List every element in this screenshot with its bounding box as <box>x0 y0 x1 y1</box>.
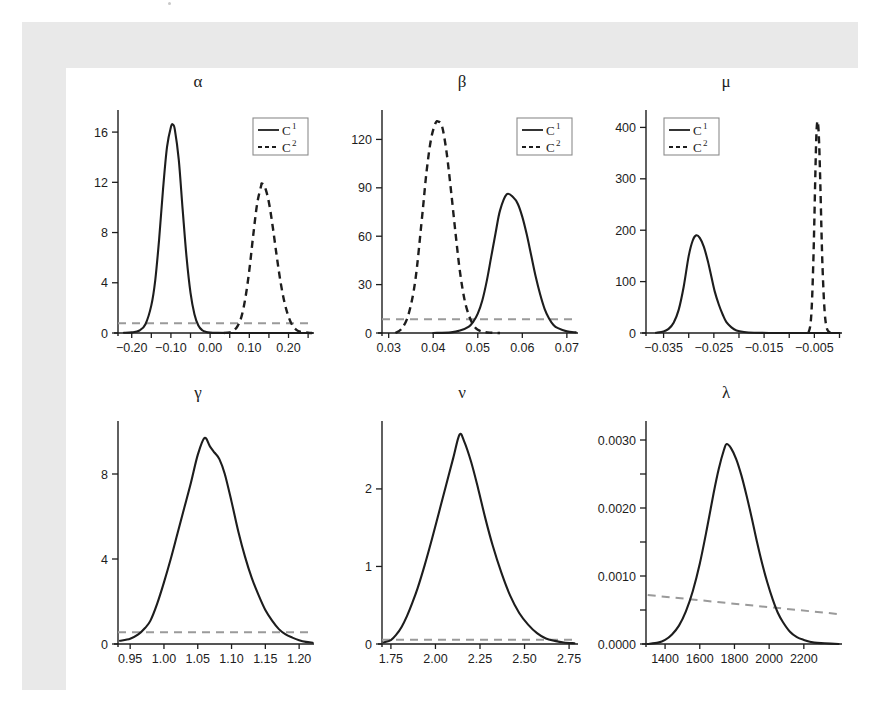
chart-panel-4: γ0.951.001.051.101.151.20048 <box>66 379 330 690</box>
legend-label-superscript: 2 <box>556 138 561 148</box>
x-tick-label: −0.035 <box>644 341 683 355</box>
x-tick-label: −0.10 <box>155 341 187 355</box>
chart-panel-1: α−0.20−0.100.000.100.200481216C1C2 <box>66 68 330 379</box>
y-tick-label: 4 <box>101 276 108 290</box>
y-tick-label: 8 <box>101 226 108 240</box>
y-tick-label: 0.0020 <box>598 502 636 516</box>
legend-label: C <box>282 140 291 155</box>
chart-panel-2: β0.030.040.050.060.070306090120C1C2 <box>330 68 594 379</box>
y-tick-label: 1 <box>365 560 372 574</box>
density-curve-C1 <box>648 444 839 644</box>
plot-svg: 0.030.040.050.060.070306090120C1C2 <box>330 68 594 379</box>
chart-panel-5: ν1.752.002.252.502.75012 <box>330 379 594 690</box>
legend-label: C <box>693 123 702 138</box>
density-curve-C1 <box>120 438 313 643</box>
legend-label: C <box>546 140 555 155</box>
y-tick-label: 0.0000 <box>598 638 636 652</box>
figure-canvas: α−0.20−0.100.000.100.200481216C1C2β0.030… <box>0 0 880 725</box>
y-tick-label: 0 <box>101 638 108 652</box>
density-curve-C2 <box>808 121 830 333</box>
x-tick-label: 1800 <box>721 652 749 666</box>
legend-label-superscript: 1 <box>703 121 708 131</box>
legend-label-superscript: 2 <box>292 138 297 148</box>
legend-label: C <box>282 123 291 138</box>
density-curve-C1 <box>384 434 575 643</box>
y-tick-label: 2 <box>365 482 372 496</box>
y-tick-label: 0.0030 <box>598 434 636 448</box>
x-tick-label: 0.05 <box>466 341 490 355</box>
plot-svg: −0.20−0.100.000.100.200481216C1C2 <box>66 68 330 379</box>
chart-panel-6: λ140016001800200022000.00000.00100.00200… <box>594 379 858 690</box>
prior-density-line <box>648 595 839 614</box>
x-tick-label: −0.015 <box>745 341 784 355</box>
panel-grid: α−0.20−0.100.000.100.200481216C1C2β0.030… <box>66 68 858 690</box>
x-tick-label: 0.03 <box>377 341 401 355</box>
x-tick-label: 1.15 <box>253 652 277 666</box>
x-tick-label: 0.95 <box>118 652 142 666</box>
legend-box <box>517 118 572 155</box>
y-tick-label: 8 <box>101 468 108 482</box>
x-tick-label: 0.07 <box>555 341 579 355</box>
plot-svg: 140016001800200022000.00000.00100.00200.… <box>594 379 858 690</box>
x-tick-label: −0.20 <box>116 341 148 355</box>
legend-box <box>664 118 719 155</box>
figure-outer-frame: α−0.20−0.100.000.100.200481216C1C2β0.030… <box>22 22 858 690</box>
chart-panel-3: μ−0.035−0.025−0.015−0.0050100200300400C1… <box>594 68 858 379</box>
x-tick-label: 1400 <box>651 652 679 666</box>
figure-inner-panel: α−0.20−0.100.000.100.200481216C1C2β0.030… <box>66 68 858 690</box>
x-tick-label: 1.20 <box>287 652 311 666</box>
y-tick-label: 400 <box>615 121 636 135</box>
plot-svg: −0.035−0.025−0.015−0.0050100200300400C1C… <box>594 68 858 379</box>
y-tick-label: 120 <box>351 133 372 147</box>
y-tick-label: 100 <box>615 275 636 289</box>
x-tick-label: 0.20 <box>276 341 300 355</box>
legend-label: C <box>693 140 702 155</box>
x-tick-label: 2200 <box>790 652 818 666</box>
plot-svg: 1.752.002.252.502.75012 <box>330 379 594 690</box>
x-tick-label: 1600 <box>686 652 714 666</box>
x-tick-label: −0.005 <box>795 341 834 355</box>
scan-artifact-speck <box>168 2 171 5</box>
x-tick-label: 0.10 <box>237 341 261 355</box>
legend-label-superscript: 2 <box>703 138 708 148</box>
x-tick-label: 2.00 <box>423 652 447 666</box>
x-tick-label: 0.04 <box>421 341 445 355</box>
density-curve-C2 <box>395 121 500 333</box>
x-tick-label: 2.75 <box>557 652 581 666</box>
x-tick-label: −0.025 <box>695 341 734 355</box>
x-tick-label: 2000 <box>755 652 783 666</box>
y-tick-label: 12 <box>94 176 108 190</box>
x-tick-label: 1.00 <box>152 652 176 666</box>
density-curve-C2 <box>224 183 312 333</box>
x-tick-label: 2.50 <box>512 652 536 666</box>
legend-box <box>253 118 308 155</box>
x-tick-label: 1.10 <box>219 652 243 666</box>
x-tick-label: 0.06 <box>510 341 534 355</box>
legend-label-superscript: 1 <box>292 121 297 131</box>
legend-label-superscript: 1 <box>556 121 561 131</box>
plot-svg: 0.951.001.051.101.151.20048 <box>66 379 330 690</box>
x-tick-label: 2.25 <box>468 652 492 666</box>
y-tick-label: 16 <box>94 126 108 140</box>
y-tick-label: 0 <box>365 638 372 652</box>
y-tick-label: 0 <box>365 327 372 341</box>
y-tick-label: 60 <box>358 230 372 244</box>
y-tick-label: 4 <box>101 553 108 567</box>
y-tick-label: 90 <box>358 181 372 195</box>
y-tick-label: 0 <box>629 327 636 341</box>
legend-label: C <box>546 123 555 138</box>
y-tick-label: 0.0010 <box>598 570 636 584</box>
y-tick-label: 30 <box>358 278 372 292</box>
y-tick-label: 0 <box>101 327 108 341</box>
x-tick-label: 1.05 <box>186 652 210 666</box>
y-tick-label: 200 <box>615 224 636 238</box>
x-tick-label: 1.75 <box>379 652 403 666</box>
y-tick-label: 300 <box>615 172 636 186</box>
x-tick-label: 0.00 <box>198 341 222 355</box>
